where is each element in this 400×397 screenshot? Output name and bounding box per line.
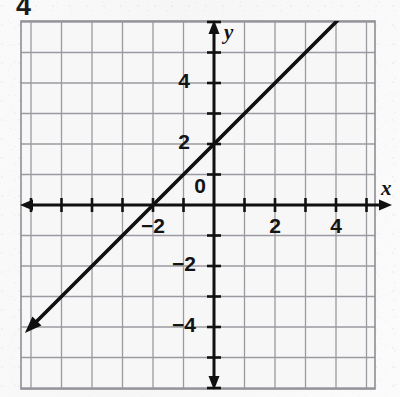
y-tick-label: 4: [164, 69, 204, 93]
x-tick-label: −2: [133, 214, 173, 238]
y-tick-label: −2: [164, 252, 204, 276]
worksheet-page: 4 ASSESSMENT FOR YOUR NOTES THE MATH LES…: [0, 0, 400, 397]
coordinate-plane: [0, 0, 400, 397]
x-tick-label-origin: 0: [180, 174, 220, 198]
y-tick-label: 2: [164, 130, 204, 154]
x-axis-label: x: [381, 176, 392, 201]
x-axis-arrow-right: [379, 200, 392, 211]
y-tick-label: −4: [164, 313, 204, 337]
x-tick-label: 2: [255, 214, 295, 238]
x-tick-label: 4: [316, 214, 356, 238]
y-axis-label: y: [224, 20, 233, 45]
